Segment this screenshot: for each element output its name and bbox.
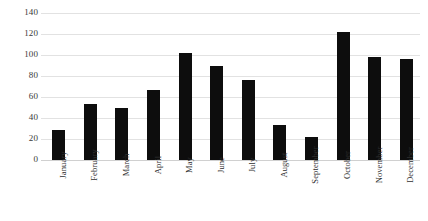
x-axis-tick-label: May xyxy=(185,157,194,173)
gridline-60 xyxy=(41,97,420,98)
gridline-40 xyxy=(41,118,420,119)
x-axis-tick-label: April xyxy=(154,156,163,174)
x-axis-tick-label: August xyxy=(280,152,289,177)
x-axis-tick: October xyxy=(337,163,350,219)
bar xyxy=(147,90,160,160)
x-axis-tick: November xyxy=(368,163,381,219)
x-axis-tick: July xyxy=(242,163,255,219)
x-axis-tick-label: November xyxy=(375,147,384,184)
plot-area xyxy=(41,0,420,161)
bar xyxy=(115,108,128,161)
bar xyxy=(210,66,223,161)
y-axis-tick-label: 140 xyxy=(4,8,38,17)
x-axis-tick: June xyxy=(210,163,223,219)
gridline-140 xyxy=(41,13,420,14)
x-axis-tick: May xyxy=(179,163,192,219)
y-axis-tick-label: 100 xyxy=(4,50,38,59)
gridline-20 xyxy=(41,139,420,140)
x-axis-tick-label: March xyxy=(122,154,131,177)
x-axis-tick-label: January xyxy=(59,151,68,178)
x-axis-tick: September xyxy=(305,163,318,219)
bar xyxy=(179,53,192,160)
y-axis-tick-label: 80 xyxy=(4,71,38,80)
x-axis-tick: January xyxy=(52,163,65,219)
y-axis-tick-label: 20 xyxy=(4,134,38,143)
gridline-120 xyxy=(41,34,420,35)
y-axis-tick-label: 60 xyxy=(4,92,38,101)
x-axis-tick: March xyxy=(115,163,128,219)
x-axis-tick-label: July xyxy=(248,158,257,173)
gridline-100 xyxy=(41,55,420,56)
gridline-80 xyxy=(41,76,420,77)
bar xyxy=(368,57,381,160)
y-axis: 020406080100120140 xyxy=(0,0,38,161)
x-axis-tick-label: December xyxy=(406,147,415,183)
x-axis-tick: April xyxy=(147,163,160,219)
x-axis-tick: December xyxy=(400,163,413,219)
bar xyxy=(242,80,255,160)
bar-chart: 020406080100120140 JanuaryFebruaryMarchA… xyxy=(0,0,428,221)
bar xyxy=(337,32,350,160)
bar xyxy=(400,59,413,160)
y-axis-tick-label: 0 xyxy=(4,155,38,164)
x-axis-tick-label: February xyxy=(90,149,99,180)
y-axis-tick-label: 120 xyxy=(4,29,38,38)
y-axis-tick-label: 40 xyxy=(4,113,38,122)
x-axis-tick: February xyxy=(84,163,97,219)
x-axis-tick-label: June xyxy=(217,157,226,173)
x-axis-tick-label: September xyxy=(311,146,320,183)
x-axis-tick: August xyxy=(273,163,286,219)
x-axis-tick-label: October xyxy=(343,151,352,179)
x-axis: JanuaryFebruaryMarchAprilMayJuneJulyAugu… xyxy=(41,163,420,221)
